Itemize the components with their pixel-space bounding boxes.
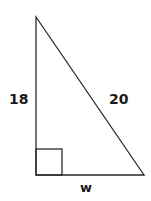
hypotenuse-label: 20 bbox=[109, 92, 128, 106]
triangle-diagram: 18 20 w bbox=[0, 0, 151, 201]
horizontal-leg-label: w bbox=[80, 181, 92, 194]
right-angle-marker bbox=[36, 149, 62, 175]
vertical-leg-label: 18 bbox=[9, 92, 28, 106]
